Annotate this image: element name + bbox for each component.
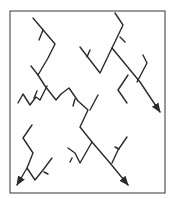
ne-left-tick-path <box>87 50 90 57</box>
mid-tick-1-path <box>73 99 75 106</box>
nw-tick-1-path <box>39 30 43 40</box>
network-diagram <box>0 0 176 199</box>
w-zigzag-path <box>18 86 47 105</box>
se-tick-path <box>115 147 119 149</box>
ne-tick-path <box>120 37 125 42</box>
sw-trunk-arrow-path <box>17 125 33 185</box>
s-mid-tick-path <box>70 158 72 162</box>
ne-trunk-arrow-path <box>112 13 160 112</box>
nw-spur-path <box>31 66 38 75</box>
mid-tick-2-path <box>90 95 98 110</box>
ne-lower-path <box>118 75 128 103</box>
branch-paths <box>17 13 160 185</box>
ne-left-path <box>80 47 112 73</box>
diagram-frame <box>10 11 165 193</box>
sw-branch-path <box>27 158 52 180</box>
diagram-canvas <box>0 0 176 199</box>
sw-tick-path <box>44 172 48 174</box>
se-branch-path <box>112 137 127 163</box>
ne-right-path <box>137 55 147 82</box>
